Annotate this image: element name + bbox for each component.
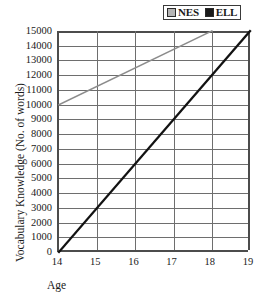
plot-area [57, 31, 248, 252]
series-line-ell [59, 31, 250, 252]
y-axis-tick-label: 4000 [31, 188, 52, 198]
y-axis-tick-label: 3000 [31, 203, 52, 213]
legend-label-ell: ELL [216, 7, 237, 18]
y-axis-tick-label: 8000 [31, 129, 52, 139]
x-axis-tick-label: 15 [90, 256, 101, 268]
y-axis-tick-label: 13000 [26, 55, 52, 65]
series-line-nes [59, 31, 212, 105]
legend-swatch-ell [205, 8, 214, 17]
y-axis-tick-label: 14000 [26, 41, 52, 51]
y-axis-tick-label: 1000 [31, 232, 52, 242]
x-axis-tick-label: 18 [205, 256, 216, 268]
legend-label-nes: NES [178, 7, 199, 18]
x-axis-title: Age [47, 279, 66, 292]
legend-swatch-nes [167, 8, 176, 17]
x-axis-tick-label: 16 [128, 256, 139, 268]
y-axis-tick-label: 2000 [31, 218, 52, 228]
y-axis-title-wrapper: Vocabulary Knowledge (No. of words) [0, 0, 18, 272]
y-axis-tick-label: 7000 [31, 144, 52, 154]
chart-legend: NES ELL [163, 5, 241, 20]
plot-series-layer [59, 31, 250, 252]
x-axis-tick-label: 14 [52, 256, 63, 268]
y-axis-tick-label: 11000 [26, 85, 52, 95]
y-axis-tick-label: 9000 [31, 114, 52, 124]
chart-figure: NES ELL Vocabulary Knowledge (No. of wor… [0, 0, 254, 307]
legend-entry-ell: ELL [205, 7, 237, 18]
x-axis-tick-label: 19 [243, 256, 254, 268]
legend-entry-nes: NES [167, 7, 199, 18]
y-axis-tick-label: 6000 [31, 159, 52, 169]
x-axis-tick-labels: 141516171819 [57, 256, 248, 272]
y-axis-tick-label: 5000 [31, 173, 52, 183]
y-axis-tick-label: 15000 [26, 26, 52, 36]
x-axis-tick-label: 17 [166, 256, 177, 268]
y-axis-tick-label: 12000 [26, 70, 52, 80]
y-axis-tick-labels: 1500014000130001200011000100009000800070… [18, 26, 55, 252]
y-axis-tick-label: 10000 [26, 100, 52, 110]
